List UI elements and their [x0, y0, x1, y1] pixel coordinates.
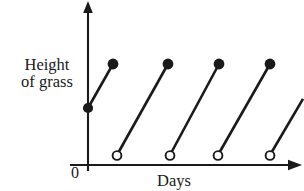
x-axis-label: Days — [157, 173, 191, 190]
origin-label: 0 — [71, 165, 79, 181]
segment-1-end-filled-dot — [108, 59, 119, 70]
y-axis-label-line-2: of grass — [10, 74, 84, 91]
segment-5-start-open-circle — [266, 151, 275, 160]
graph-canvas — [0, 0, 304, 191]
growth-segment-1 — [88, 64, 113, 108]
segment-3-end-filled-dot — [214, 59, 225, 70]
segment-1-start-filled-dot — [83, 103, 93, 113]
growth-segment-5 — [270, 99, 303, 155]
segment-2-start-open-circle — [113, 151, 122, 160]
x-axis-arrowhead — [288, 160, 302, 170]
y-axis-arrowhead — [83, 1, 93, 13]
segment-4-end-filled-dot — [265, 59, 276, 70]
growth-segment-2 — [117, 64, 168, 155]
segment-3-start-open-circle — [166, 151, 175, 160]
segment-2-end-filled-dot — [163, 59, 174, 70]
growth-segment-4 — [218, 64, 270, 155]
segment-4-start-open-circle — [214, 151, 223, 160]
y-axis-label: Height of grass — [10, 57, 84, 91]
grass-height-figure: Height of grass Days 0 — [0, 0, 304, 191]
growth-segment-3 — [170, 64, 219, 155]
